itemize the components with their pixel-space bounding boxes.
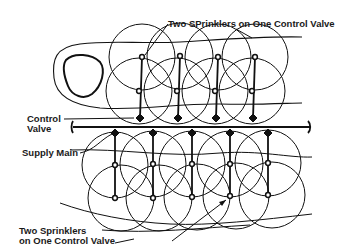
planting-bed <box>64 55 103 97</box>
lawn-boundary-top <box>53 37 302 109</box>
bottom-callout-label-2: on One Control Valve <box>19 235 115 246</box>
top-callout-label: Two SPrinklers on One Control Valve <box>168 18 335 29</box>
lawn-line-mid <box>70 150 312 157</box>
control-valves <box>111 114 272 137</box>
top-zone-spray-circles <box>106 23 288 124</box>
sprinkler-layout-diagram: Two SPrinklers on One Control Valve Cont… <box>0 0 348 248</box>
control-valve-label-2: Valve <box>27 123 51 134</box>
supply-main-label: Supply Main <box>22 147 78 158</box>
